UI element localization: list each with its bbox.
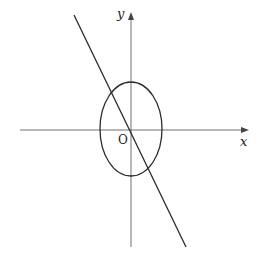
y-axis-arrow-icon [128,12,134,20]
x-axis-label: x [240,134,248,149]
x-axis [20,127,249,133]
origin-label: O [118,133,128,147]
line [74,15,186,247]
x-axis-arrow-icon [241,127,249,133]
coordinate-diagram: y x O [0,0,263,264]
y-axis-label: y [116,6,125,21]
